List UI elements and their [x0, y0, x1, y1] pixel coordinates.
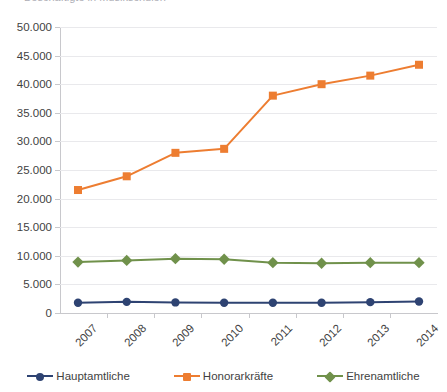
- data-point-marker: [415, 61, 423, 69]
- data-point-marker: [72, 256, 83, 267]
- legend-item-honorarkräfte[interactable]: Honorarkräfte: [174, 370, 273, 382]
- series-plot: [0, 0, 447, 392]
- legend-label: Hauptamtliche: [56, 370, 130, 382]
- legend-swatch-icon: [174, 370, 200, 382]
- data-point-marker: [366, 72, 374, 80]
- data-point-marker: [318, 80, 326, 88]
- data-point-marker: [171, 298, 179, 306]
- data-point-marker: [317, 299, 325, 307]
- data-point-marker: [415, 297, 423, 305]
- data-point-marker: [170, 253, 181, 264]
- chart-legend: HauptamtlicheHonorarkräfteEhrenamtliche: [0, 370, 447, 382]
- data-point-marker: [413, 257, 424, 268]
- legend-label: Ehrenamtliche: [346, 370, 420, 382]
- data-point-marker: [365, 257, 376, 268]
- legend-swatch-icon: [317, 370, 343, 382]
- data-point-marker: [218, 254, 229, 265]
- legend-item-ehrenamtliche[interactable]: Ehrenamtliche: [317, 370, 420, 382]
- series-line-honorarkräfte: [78, 65, 419, 190]
- data-point-marker: [269, 299, 277, 307]
- data-point-marker: [220, 145, 228, 153]
- data-point-marker: [171, 149, 179, 157]
- chart-container: Beschäftigte in Musikschulen 05.00010.00…: [0, 0, 447, 392]
- legend-label: Honorarkräfte: [203, 370, 273, 382]
- data-point-marker: [220, 299, 228, 307]
- data-point-marker: [316, 258, 327, 269]
- data-point-marker: [121, 255, 132, 266]
- legend-swatch-icon: [27, 370, 53, 382]
- data-point-marker: [267, 257, 278, 268]
- data-point-marker: [123, 298, 131, 306]
- data-point-marker: [366, 298, 374, 306]
- data-point-marker: [269, 92, 277, 100]
- legend-item-hauptamtliche[interactable]: Hauptamtliche: [27, 370, 130, 382]
- data-point-marker: [74, 186, 82, 194]
- data-point-marker: [123, 172, 131, 180]
- data-point-marker: [74, 299, 82, 307]
